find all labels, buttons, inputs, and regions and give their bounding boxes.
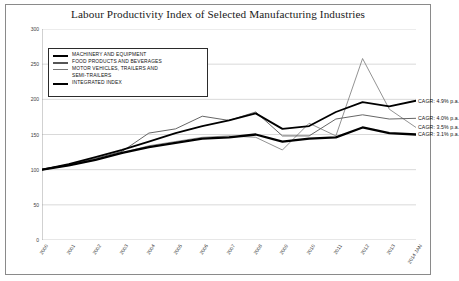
legend-label-machinery: MACHINERY AND EQUIPMENT [72, 52, 146, 58]
legend-line-icon-machinery [53, 55, 68, 57]
y-axis-tick-label: 0 [36, 237, 39, 243]
y-axis-tick-label: 50 [33, 202, 39, 208]
legend-label-motor-vehicles-line1: MOTOR VEHICLES, TRAILERS AND [72, 66, 158, 71]
y-axis-tick-label: 150 [31, 132, 39, 138]
legend-item-food: FOOD PRODUCTS AND BEVERAGES [53, 59, 203, 65]
legend-item-integrated-index: INTEGRATED INDEX [53, 80, 203, 86]
series-line [42, 127, 416, 169]
legend-label-motor-vehicles-line2: SEMI-TRAILERS [72, 73, 111, 78]
legend-label-integrated-index: INTEGRATED INDEX [72, 80, 122, 86]
y-axis-tick-label: 300 [31, 26, 39, 32]
legend-label-food: FOOD PRODUCTS AND BEVERAGES [72, 59, 162, 65]
cagr-label-integrated-index: CAGR: 3.1% p.a. [418, 131, 459, 137]
y-axis-tick-label: 250 [31, 61, 39, 67]
cagr-label-food: CAGR: 4.0% p.a. [418, 115, 459, 121]
chart-legend: MACHINERY AND EQUIPMENT FOOD PRODUCTS AN… [48, 48, 208, 97]
legend-item-motor-vehicles: MOTOR VEHICLES, TRAILERS ANDSEMI-TRAILER… [53, 66, 203, 78]
legend-label-motor-vehicles: MOTOR VEHICLES, TRAILERS ANDSEMI-TRAILER… [72, 66, 158, 78]
y-axis-tick-label: 200 [31, 96, 39, 102]
chart-title: Labour Productivity Index of Selected Ma… [0, 8, 436, 20]
cagr-label-motor-vehicles: CAGR: 3.5% p.a. [418, 124, 459, 130]
cagr-label-machinery: CAGR: 4.9% p.a. [418, 98, 459, 104]
y-axis-tick-label: 100 [31, 167, 39, 173]
legend-item-machinery: MACHINERY AND EQUIPMENT [53, 52, 203, 58]
legend-line-icon-motor-vehicles [53, 69, 68, 70]
legend-line-icon-integrated-index [53, 83, 68, 86]
legend-line-icon-food [53, 62, 68, 63]
